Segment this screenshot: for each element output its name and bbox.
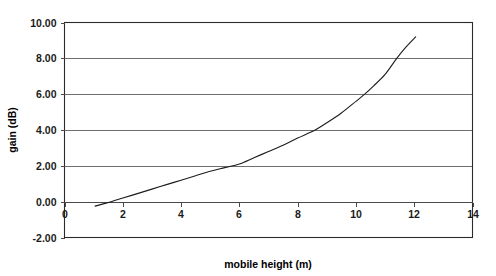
ytick-label-2: 2.00 bbox=[36, 160, 57, 172]
gain-vs-mobile-height-chart: 02468101214 -2.000.002.004.006.008.0010.… bbox=[0, 0, 496, 276]
y-axis-title: gain (dB) bbox=[6, 107, 18, 153]
chart-container: 02468101214 -2.000.002.004.006.008.0010.… bbox=[0, 0, 496, 276]
ytick-label-8: 8.00 bbox=[36, 52, 57, 64]
ytick-label-6: 6.00 bbox=[36, 88, 57, 100]
xtick-label-6: 6 bbox=[236, 208, 242, 220]
ytick-label-4: 4.00 bbox=[36, 124, 57, 136]
ytick-label-10: 10.00 bbox=[30, 17, 56, 29]
xtick-label-14: 14 bbox=[467, 208, 479, 220]
chart-background bbox=[0, 0, 496, 276]
xtick-label-4: 4 bbox=[178, 208, 184, 220]
x-axis-title: mobile height (m) bbox=[224, 258, 312, 270]
ytick-label-0: 0.00 bbox=[36, 196, 57, 208]
xtick-label-0: 0 bbox=[62, 208, 68, 220]
xtick-label-12: 12 bbox=[408, 208, 420, 220]
xtick-label-10: 10 bbox=[350, 208, 362, 220]
xtick-label-2: 2 bbox=[120, 208, 126, 220]
ytick-label--2: -2.00 bbox=[33, 232, 57, 244]
xtick-label-8: 8 bbox=[295, 208, 301, 220]
